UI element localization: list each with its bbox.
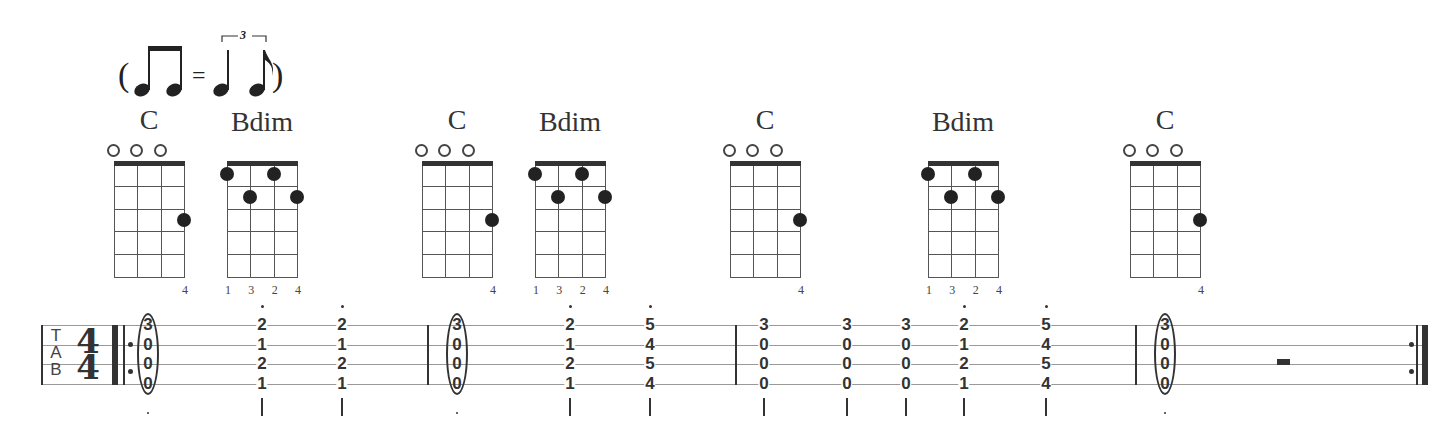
- rhythm-stem: [763, 398, 765, 416]
- fret-number: 2: [256, 356, 267, 372]
- rhythm-stem: [1045, 398, 1047, 416]
- fret-number: 0: [1159, 376, 1170, 392]
- finger-number: 4: [295, 283, 301, 298]
- end-repeat-thin-bar: [1416, 325, 1418, 385]
- finger-number: 4: [490, 283, 496, 298]
- nut: [227, 161, 298, 166]
- fret-number: 2: [336, 317, 347, 333]
- fret-line: [928, 186, 998, 187]
- fret-number: 0: [841, 356, 852, 372]
- finger-dot-icon: [968, 167, 982, 181]
- fret-number: 0: [900, 376, 911, 392]
- fret-line: [928, 209, 998, 210]
- equals-sign: =: [192, 62, 206, 89]
- fret-number: 1: [564, 337, 575, 353]
- staccato-dot: [261, 305, 264, 308]
- finger-dot-icon: [485, 213, 499, 227]
- open-string-icon: [770, 144, 783, 157]
- fretboard-grid: [114, 163, 185, 278]
- open-string-icon: [438, 144, 451, 157]
- fret-number: 0: [1159, 337, 1170, 353]
- open-string-icon: [1146, 144, 1159, 157]
- fret-number: 0: [758, 337, 769, 353]
- fret-number: 5: [1040, 356, 1051, 372]
- nut: [422, 161, 493, 166]
- fret-number: 4: [1040, 376, 1051, 392]
- fret-line: [730, 186, 800, 187]
- fret-number: 1: [958, 376, 969, 392]
- fret-number: 4: [1040, 337, 1051, 353]
- fretboard-grid: [535, 163, 606, 278]
- fret-number: 3: [1159, 317, 1170, 333]
- fret-line: [928, 231, 998, 232]
- fret-line: [422, 231, 492, 232]
- staccato-dot: [963, 305, 966, 308]
- staccato-dot: [569, 305, 572, 308]
- finger-number: 1: [225, 283, 231, 298]
- fret-line: [730, 254, 800, 255]
- string-line: [250, 163, 251, 277]
- fret-line: [1130, 209, 1200, 210]
- fret-line: [535, 186, 605, 187]
- rhythm-stem: [569, 398, 571, 416]
- fret-number: 0: [451, 356, 462, 372]
- finger-number: 4: [1198, 283, 1204, 298]
- open-string-icon: [107, 144, 120, 157]
- fret-number: 4: [644, 376, 655, 392]
- string-line: [161, 163, 162, 277]
- fret-number: 0: [758, 376, 769, 392]
- fretboard-grid: [1130, 163, 1201, 278]
- fret-number: 5: [644, 356, 655, 372]
- nut: [1130, 161, 1201, 166]
- open-string-icon: [723, 144, 736, 157]
- finger-number: 4: [182, 283, 188, 298]
- fret-number: 0: [451, 337, 462, 353]
- fret-number: 2: [256, 317, 267, 333]
- open-string-icon: [1170, 144, 1183, 157]
- fret-number: 2: [958, 317, 969, 333]
- chord-name: C: [756, 104, 775, 136]
- finger-dot-icon: [290, 190, 304, 204]
- finger-dot-icon: [177, 213, 191, 227]
- fret-number: 1: [336, 376, 347, 392]
- fretboard-grid: [730, 163, 801, 278]
- repeat-dot: [1409, 369, 1414, 374]
- fret-number: 0: [841, 376, 852, 392]
- finger-dot-icon: [1193, 213, 1207, 227]
- fret-number: 0: [142, 356, 153, 372]
- chord-name: C: [1156, 104, 1175, 136]
- fret-number: 4: [644, 337, 655, 353]
- fret-number: 0: [900, 337, 911, 353]
- fret-line: [535, 254, 605, 255]
- rhythm-dot: [147, 412, 149, 414]
- string-line: [469, 163, 470, 277]
- open-string-icon: [130, 144, 143, 157]
- fretboard-grid: [422, 163, 493, 278]
- rhythm-stem: [261, 398, 263, 416]
- beamed-eighths-icon: [130, 30, 192, 102]
- measure-barline: [1135, 325, 1137, 385]
- rhythm-dot: [456, 412, 458, 414]
- end-repeat-thick-bar: [1422, 325, 1428, 385]
- fret-number: 1: [958, 337, 969, 353]
- chord-name: Bdim: [231, 106, 293, 138]
- finger-number: 1: [533, 283, 539, 298]
- fret-line: [535, 209, 605, 210]
- fret-number: 3: [900, 317, 911, 333]
- string-line: [137, 163, 138, 277]
- staccato-dot: [649, 305, 652, 308]
- fretboard-grid: [928, 163, 999, 278]
- fret-number: 0: [1159, 356, 1170, 372]
- close-paren: ): [272, 56, 283, 94]
- open-string-icon: [154, 144, 167, 157]
- finger-number: 4: [603, 283, 609, 298]
- fret-line: [730, 209, 800, 210]
- fret-number: 3: [841, 317, 852, 333]
- half-rest-icon: [1277, 359, 1290, 365]
- fret-number: 0: [142, 376, 153, 392]
- finger-number: 1: [926, 283, 932, 298]
- fret-number: 3: [758, 317, 769, 333]
- fret-number: 2: [336, 356, 347, 372]
- finger-number: 3: [248, 283, 254, 298]
- finger-number: 2: [580, 283, 586, 298]
